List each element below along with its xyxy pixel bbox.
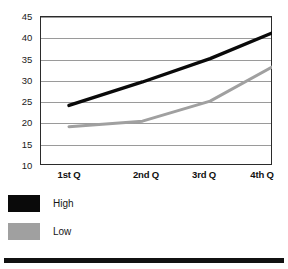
y-axis-tick-label: 45 (22, 11, 32, 22)
series-svg (40, 16, 272, 165)
y-axis-tick-label: 30 (22, 74, 32, 85)
legend-swatch-low (8, 223, 40, 240)
y-axis-tick-label: 15 (22, 138, 32, 149)
x-axis-tick-label: 2nd Q (133, 169, 159, 180)
x-axis-tick-labels: 1st Q 2nd Q 3rd Q 4th Q (40, 169, 272, 185)
x-axis-tick-label: 1st Q (58, 169, 81, 180)
legend-label-low: Low (53, 226, 71, 237)
legend-swatch-high (8, 195, 40, 212)
legend-item-high: High (8, 192, 168, 214)
y-axis-tick-label: 25 (22, 96, 32, 107)
page-edge-bar (4, 258, 284, 263)
legend-item-low: Low (8, 220, 168, 242)
y-axis-tick-labels: 45 40 35 30 25 20 15 10 (0, 16, 36, 165)
y-axis-tick-label: 10 (22, 160, 32, 171)
y-axis-tick-label: 20 (22, 117, 32, 128)
legend-label-high: High (53, 198, 74, 209)
y-axis-tick-label: 35 (22, 53, 32, 64)
chart-legend: High Low (8, 192, 168, 248)
series-lines (40, 16, 272, 165)
y-axis-tick-label: 40 (22, 32, 32, 43)
line-chart-figure: 45 40 35 30 25 20 15 10 1st Q 2nd Q 3rd … (0, 0, 288, 269)
x-axis-tick-label: 3rd Q (192, 169, 216, 180)
series-line-high (69, 33, 272, 105)
x-axis-tick-label: 4th Q (250, 169, 273, 180)
